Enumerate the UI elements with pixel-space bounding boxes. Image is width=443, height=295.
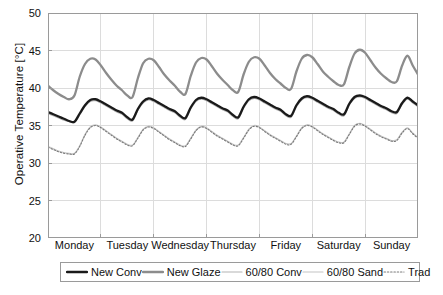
x-tick-label: Thursday — [210, 239, 256, 251]
chart-figure: Operative Temperature [°C] 5045403530252… — [0, 0, 443, 295]
legend-item[interactable]: Trad — [383, 266, 430, 278]
chart-legend: New ConvNew Glaze60/80 Conv60/80 SandTra… — [60, 262, 420, 282]
legend-swatch-2 — [142, 266, 164, 278]
series-line — [48, 97, 418, 123]
series-line — [48, 96, 418, 123]
x-axis-ticks: MondayTuesdayWednesdayThursdayFridaySatu… — [48, 239, 418, 257]
x-tick-label: Sunday — [373, 239, 410, 251]
plot-area — [48, 13, 418, 238]
y-tick-label: 40 — [29, 82, 41, 94]
y-tick-label: 30 — [29, 157, 41, 169]
x-tick-label: Friday — [271, 239, 302, 251]
legend-item[interactable]: 60/80 Sand — [302, 266, 383, 278]
legend-swatch-4 — [302, 266, 324, 278]
y-tick-label: 50 — [29, 7, 41, 19]
x-tick-label: Saturday — [317, 239, 361, 251]
legend-label: 60/80 Sand — [327, 266, 383, 278]
x-tick-label: Wednesday — [151, 239, 209, 251]
legend-label: New Conv — [91, 266, 142, 278]
chart-canvas — [48, 13, 418, 238]
legend-item[interactable]: New Conv — [66, 266, 142, 278]
y-tick-label: 35 — [29, 120, 41, 132]
y-tick-label: 25 — [29, 195, 41, 207]
legend-swatch-3 — [221, 266, 243, 278]
legend-item[interactable]: New Glaze — [142, 266, 221, 278]
y-tick-label: 45 — [29, 45, 41, 57]
legend-item[interactable]: 60/80 Conv — [221, 266, 302, 278]
series-line — [48, 123, 418, 154]
x-tick-label: Tuesday — [106, 239, 148, 251]
series-line — [48, 50, 418, 100]
y-tick-label: 20 — [29, 232, 41, 244]
legend-swatch-5 — [383, 266, 405, 278]
legend-swatch-1 — [66, 266, 88, 278]
legend-label: New Glaze — [167, 266, 221, 278]
x-tick-label: Monday — [55, 239, 94, 251]
legend-label: 60/80 Conv — [246, 266, 302, 278]
y-axis-ticks: 50454035302520 — [0, 0, 46, 240]
legend-label: Trad — [408, 266, 430, 278]
